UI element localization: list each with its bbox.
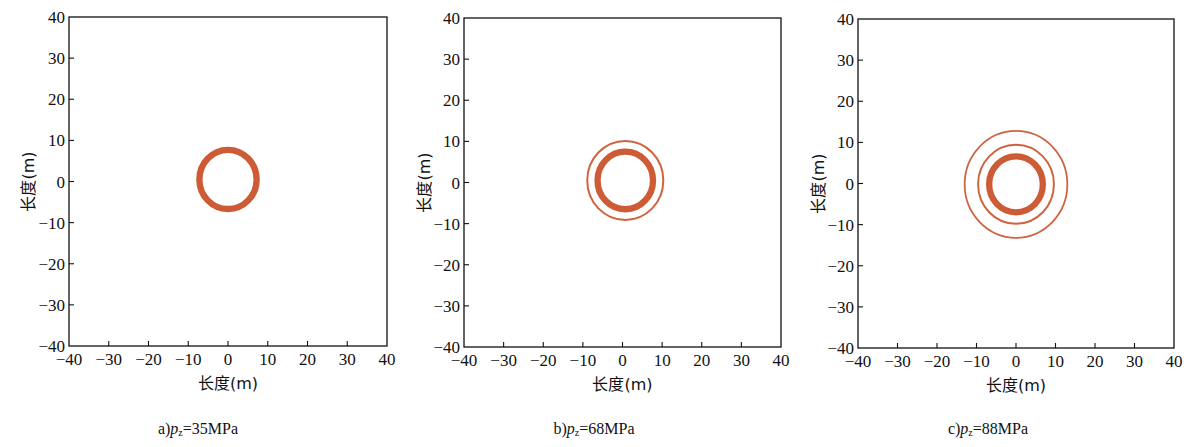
x-tick-label: 0	[224, 350, 233, 369]
x-tick-label: −10	[175, 350, 202, 369]
x-tick-label: 0	[618, 351, 627, 370]
x-tick-label: 20	[1087, 352, 1104, 371]
y-axis-title: 长度(m)	[19, 151, 38, 211]
y-tick-label: −40	[38, 337, 65, 356]
caption-c: c)pz=88MPa	[790, 420, 1186, 438]
x-tick-label: −20	[530, 351, 557, 370]
y-tick-label: 40	[443, 9, 460, 28]
y-tick-label: −30	[433, 297, 460, 316]
caption-b: b)pz=68MPa	[396, 420, 792, 438]
x-axis-title: 长度(m)	[592, 375, 652, 394]
y-tick-label: −10	[433, 215, 460, 234]
x-tick-label: 0	[1012, 352, 1021, 371]
caption-var: p	[567, 420, 575, 437]
caption-value: =88MPa	[973, 420, 1028, 437]
panel-c: −40−30−20−10010203040−40−30−20−100102030…	[790, 0, 1186, 447]
x-tick-label: 10	[654, 351, 671, 370]
y-tick-label: 0	[846, 175, 855, 194]
caption-label: a)	[158, 420, 170, 437]
y-tick-label: 30	[443, 50, 460, 69]
y-tick-label: −40	[433, 338, 460, 357]
x-tick-label: −30	[95, 350, 122, 369]
x-tick-label: −10	[570, 351, 597, 370]
y-tick-label: 30	[837, 51, 854, 70]
caption-label: b)	[553, 420, 566, 437]
y-tick-label: −30	[38, 296, 65, 315]
x-tick-label: 20	[299, 350, 316, 369]
plot-a: −40−30−20−10010203040−40−30−20−100102030…	[0, 0, 396, 447]
y-tick-label: −30	[827, 298, 854, 317]
x-tick-label: 10	[259, 350, 276, 369]
y-tick-label: 10	[48, 131, 65, 150]
x-tick-label: 40	[773, 351, 790, 370]
x-axis-title: 长度(m)	[198, 374, 258, 393]
y-tick-label: 0	[452, 174, 461, 193]
y-axis-title: 长度(m)	[415, 152, 434, 212]
x-tick-label: 30	[339, 350, 356, 369]
y-tick-label: 40	[48, 8, 65, 27]
plastic-zone-ring	[199, 150, 256, 209]
axes-frame	[69, 17, 387, 346]
x-tick-label: 20	[693, 351, 710, 370]
caption-value: =68MPa	[579, 420, 634, 437]
x-tick-label: −20	[924, 352, 951, 371]
y-tick-label: 40	[837, 10, 854, 29]
y-tick-label: 30	[48, 49, 65, 68]
axes-frame	[464, 18, 781, 347]
x-tick-label: 30	[733, 351, 750, 370]
y-tick-label: 10	[443, 132, 460, 151]
plot-b: −40−30−20−10010203040−40−30−20−100102030…	[396, 0, 792, 447]
x-tick-label: 10	[1047, 352, 1064, 371]
x-tick-label: −10	[963, 352, 990, 371]
y-tick-label: −40	[827, 339, 854, 358]
x-tick-label: −30	[490, 351, 517, 370]
y-tick-label: −20	[827, 257, 854, 276]
y-tick-label: 0	[57, 173, 66, 192]
y-tick-label: 10	[837, 133, 854, 152]
y-axis-title: 长度(m)	[809, 153, 828, 213]
x-axis-title: 长度(m)	[986, 376, 1046, 395]
x-tick-label: 40	[379, 350, 396, 369]
y-tick-label: −10	[38, 214, 65, 233]
y-tick-label: 20	[48, 90, 65, 109]
caption-a: a)pz=35MPa	[0, 420, 396, 438]
x-tick-label: 30	[1126, 352, 1143, 371]
y-tick-label: −10	[827, 216, 854, 235]
fracture-ring	[965, 131, 1068, 238]
panel-b: −40−30−20−10010203040−40−30−20−100102030…	[396, 0, 792, 447]
plastic-zone-ring	[598, 152, 653, 210]
x-tick-label: −30	[884, 352, 911, 371]
x-tick-label: −20	[135, 350, 162, 369]
caption-label: c)	[948, 420, 960, 437]
panel-a: −40−30−20−10010203040−40−30−20−100102030…	[0, 0, 396, 447]
axes-frame	[858, 19, 1174, 348]
caption-value: =35MPa	[183, 420, 238, 437]
y-tick-label: 20	[837, 92, 854, 111]
y-tick-label: 20	[443, 91, 460, 110]
y-tick-label: −20	[433, 256, 460, 275]
x-tick-label: 40	[1166, 352, 1183, 371]
plot-c: −40−30−20−10010203040−40−30−20−100102030…	[790, 0, 1188, 447]
plastic-zone-ring	[989, 156, 1043, 212]
y-tick-label: −20	[38, 255, 65, 274]
